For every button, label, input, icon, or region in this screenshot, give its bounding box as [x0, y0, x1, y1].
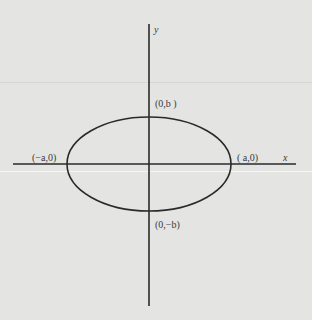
x-axis-label: x: [283, 153, 287, 163]
vertex-label-right: ( a,0): [237, 153, 258, 163]
diagram-canvas: y x (−a,0) ( a,0) (0,b ) (0,−b): [0, 0, 312, 320]
vertex-label-top: (0,b ): [155, 99, 177, 109]
vertex-label-bottom: (0,−b): [155, 220, 180, 230]
y-axis-label: y: [154, 25, 158, 35]
vertex-label-left: (−a,0): [32, 153, 56, 163]
